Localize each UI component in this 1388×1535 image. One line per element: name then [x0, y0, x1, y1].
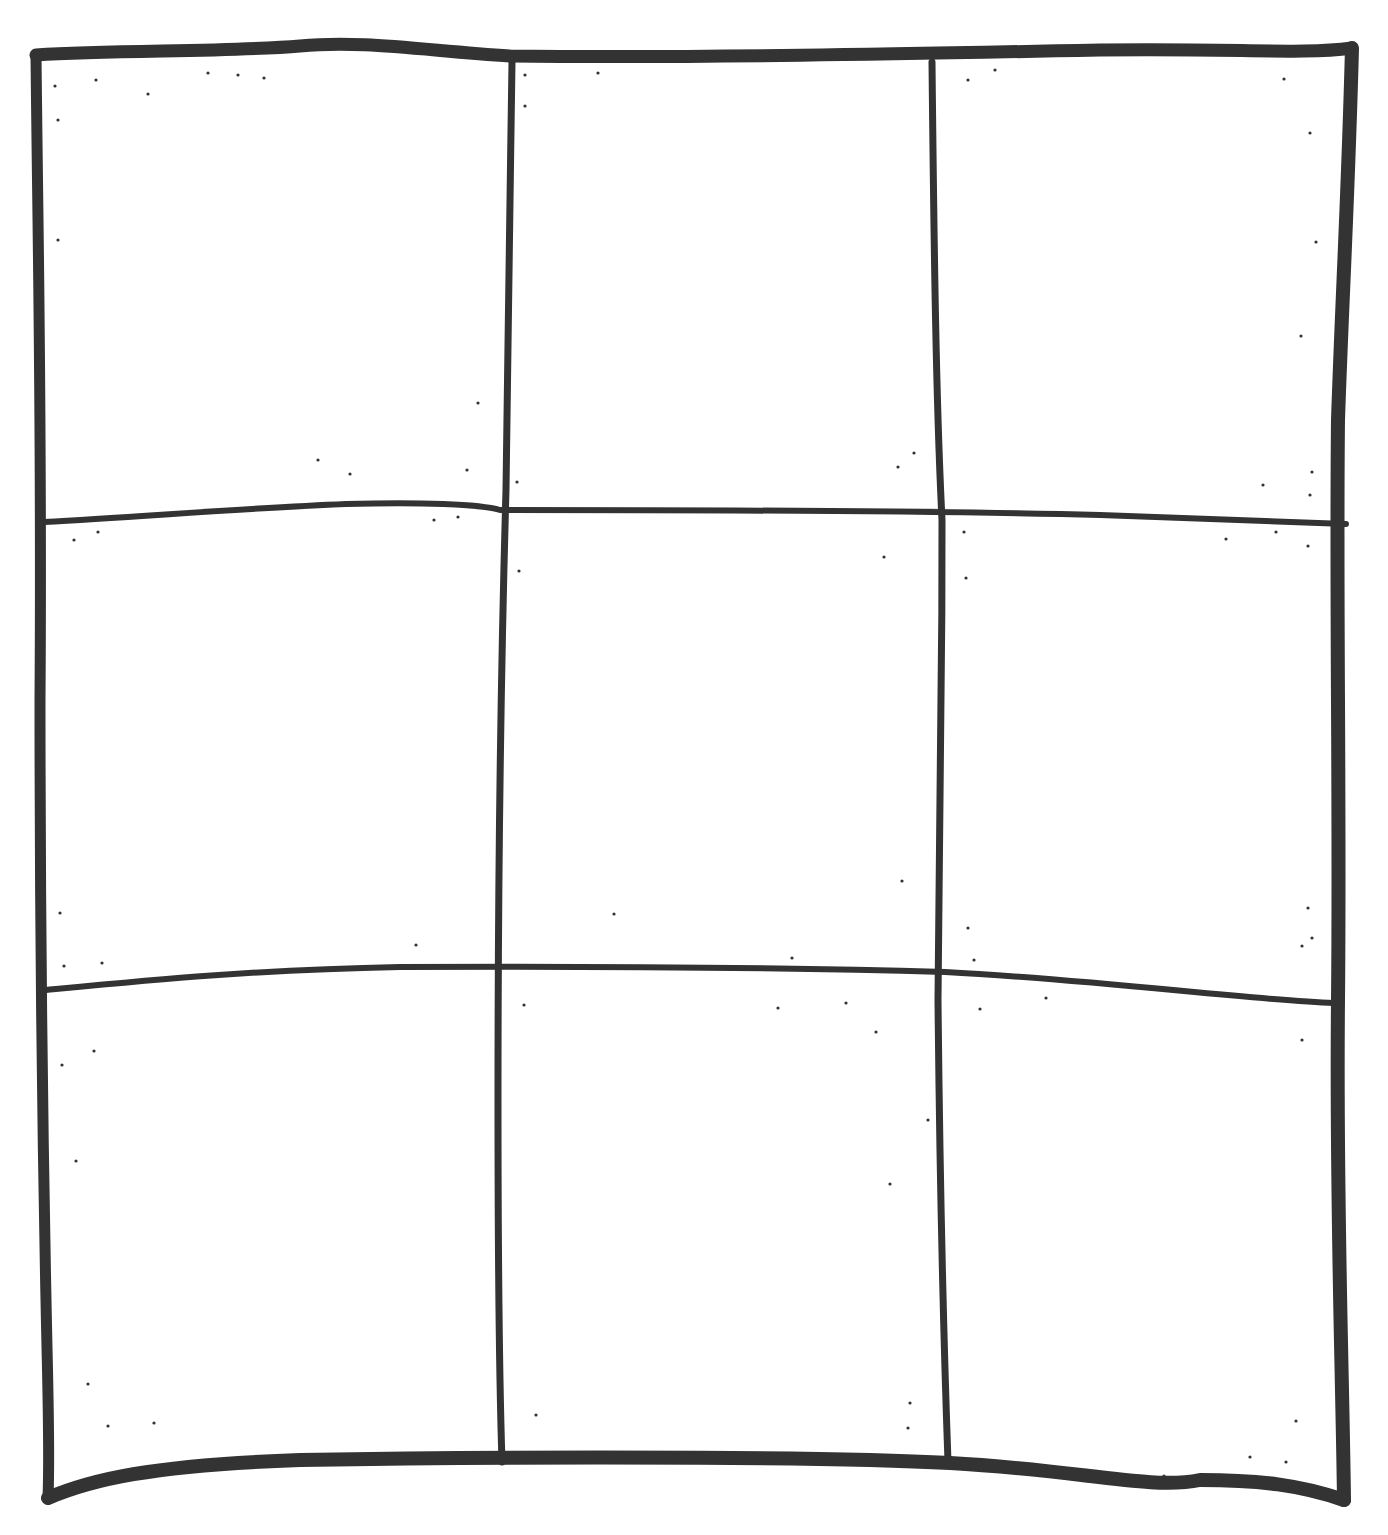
ink-speckle — [993, 68, 996, 71]
ink-speckle — [1261, 483, 1264, 486]
ink-speckle — [522, 1003, 525, 1006]
ink-speckle — [1300, 1038, 1303, 1041]
ink-speckle — [72, 538, 75, 541]
ink-speckle — [465, 468, 468, 471]
hand-drawn-grid — [0, 0, 1388, 1535]
ink-speckle — [1300, 944, 1303, 947]
ink-speckle — [596, 71, 599, 74]
grid-panel-r2-c1 — [44, 514, 506, 980]
ink-speckle — [236, 73, 239, 76]
ink-speckle — [1282, 77, 1285, 80]
grid-panel-r3-c2 — [506, 980, 940, 1470]
ink-speckle — [86, 1382, 89, 1385]
ink-speckle — [1248, 1455, 1251, 1458]
ink-speckle — [348, 472, 351, 475]
ink-speckle — [206, 71, 209, 74]
border-right — [1337, 48, 1352, 1500]
ink-speckle — [94, 78, 97, 81]
border-top — [36, 44, 1352, 56]
ink-speckle — [316, 458, 319, 461]
ink-speckle — [906, 1426, 909, 1429]
ink-speckle — [776, 1006, 779, 1009]
grid-diagram — [0, 0, 1388, 1535]
ink-speckle — [1308, 493, 1311, 496]
ink-speckle — [1294, 1419, 1297, 1422]
ink-speckle — [790, 956, 793, 959]
ink-speckle — [978, 1007, 981, 1010]
ink-speckle — [874, 1030, 877, 1033]
grid-panel-r3-c3 — [940, 980, 1342, 1470]
ink-speckle — [1306, 906, 1309, 909]
ink-speckle — [517, 569, 520, 572]
grid-panel-r1-c1 — [44, 56, 506, 514]
ink-speckle — [1308, 131, 1311, 134]
ink-speckle — [962, 530, 965, 533]
ink-speckle — [1044, 996, 1047, 999]
ink-speckle — [908, 1401, 911, 1404]
ink-speckle — [152, 1421, 155, 1424]
ink-speckle — [62, 964, 65, 967]
ink-speckle — [56, 118, 59, 121]
ink-speckle — [53, 84, 56, 87]
grid-panel-r1-c2 — [506, 56, 940, 514]
ink-speckle — [1306, 544, 1309, 547]
ink-speckle — [612, 912, 615, 915]
ink-speckle — [146, 92, 149, 95]
grid-panel-r3-c1 — [44, 980, 506, 1470]
ink-speckle — [1274, 530, 1277, 533]
ink-speckle — [106, 1424, 109, 1427]
ink-speckle — [966, 926, 969, 929]
ink-speckle — [966, 78, 969, 81]
ink-speckle — [523, 104, 526, 107]
ink-speckle — [1310, 936, 1313, 939]
ink-speckle — [476, 401, 479, 404]
ink-speckle — [1314, 240, 1317, 243]
ink-speckle — [262, 76, 265, 79]
ink-speckle — [523, 73, 526, 76]
grid-panel-r1-c3 — [940, 56, 1342, 514]
ink-speckle — [882, 555, 885, 558]
ink-speckle — [900, 879, 903, 882]
panel-layer — [44, 56, 1342, 1470]
ink-speckle — [56, 238, 59, 241]
ink-speckle — [926, 1118, 929, 1121]
ink-speckle — [964, 576, 967, 579]
ink-speckle — [100, 961, 103, 964]
ink-speckle — [456, 515, 459, 518]
ink-speckle — [58, 911, 61, 914]
ink-speckle — [896, 465, 899, 468]
ink-speckle — [1310, 470, 1313, 473]
ink-speckle — [534, 1413, 537, 1416]
grid-panel-r2-c3 — [940, 514, 1342, 980]
ink-speckle — [74, 1159, 77, 1162]
grid-panel-r2-c2 — [506, 514, 940, 980]
ink-speckle — [414, 943, 417, 946]
ink-speckle — [1299, 334, 1302, 337]
ink-speckle — [1284, 1460, 1287, 1463]
ink-speckle — [844, 1001, 847, 1004]
ink-speckle — [60, 1063, 63, 1066]
ink-speckle — [432, 518, 435, 521]
ink-speckle — [1224, 537, 1227, 540]
ink-speckle — [972, 958, 975, 961]
ink-speckle — [92, 1049, 95, 1052]
ink-speckle — [888, 1182, 891, 1185]
ink-speckle — [96, 530, 99, 533]
ink-speckle — [515, 480, 518, 483]
ink-speckle — [912, 451, 915, 454]
